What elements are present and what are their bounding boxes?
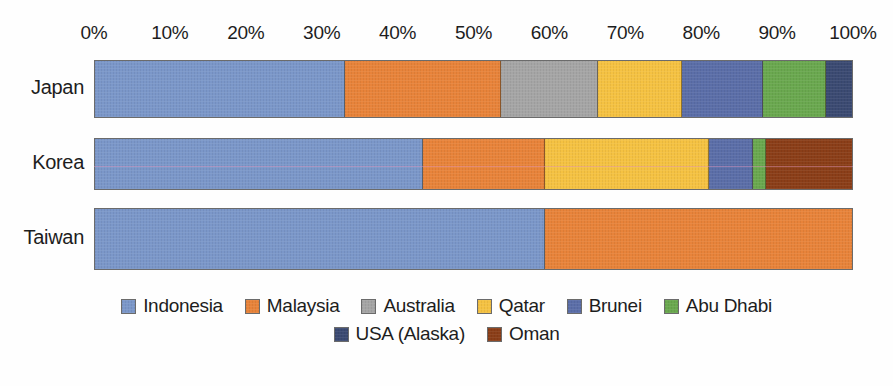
legend-label: Malaysia [267, 295, 340, 317]
segment-texture [766, 139, 852, 189]
legend-swatch-icon [477, 299, 492, 314]
x-axis: 0%10%20%30%40%50%60%70%80%90%100% [94, 22, 853, 48]
bar-segment [763, 61, 826, 117]
legend-item[interactable]: USA (Alaska) [334, 323, 465, 345]
legend-label: USA (Alaska) [356, 323, 465, 345]
bar-segment [95, 61, 345, 117]
category-label: Korea [0, 151, 84, 174]
swatch-texture [122, 300, 135, 313]
legend-label: Oman [509, 323, 560, 345]
segment-texture [95, 139, 422, 189]
bar-segment [598, 61, 682, 117]
category-label: Japan [0, 76, 84, 99]
segment-texture [501, 61, 598, 117]
bar-row: Taiwan [0, 208, 893, 270]
legend-row-1: IndonesiaMalaysiaAustraliaQatarBruneiAbu… [0, 292, 893, 320]
swatch-texture [488, 328, 501, 341]
bar-segment [501, 61, 599, 117]
legend-item[interactable]: Qatar [477, 295, 545, 317]
x-axis-tick-label: 80% [683, 22, 720, 44]
legend-item[interactable]: Oman [487, 323, 560, 345]
stacked-bar-chart: 0%10%20%30%40%50%60%70%80%90%100% JapanK… [0, 0, 893, 386]
legend-swatch-icon [361, 299, 376, 314]
plot-area: JapanKoreaTaiwan [0, 50, 893, 285]
segment-texture [763, 61, 825, 117]
segment-texture [345, 61, 500, 117]
x-axis-tick-label: 40% [379, 22, 416, 44]
x-axis-tick-label: 90% [759, 22, 796, 44]
segment-texture [545, 209, 852, 269]
bar-segment [826, 61, 852, 117]
bar-segment [682, 61, 763, 117]
stacked-bar [94, 138, 853, 190]
legend-item[interactable]: Australia [361, 295, 454, 317]
legend-swatch-icon [121, 299, 136, 314]
x-axis-tick-label: 30% [303, 22, 340, 44]
segment-texture [95, 209, 544, 269]
legend-item[interactable]: Brunei [567, 295, 642, 317]
bar-segment [766, 139, 852, 189]
bar-row: Korea [0, 138, 893, 190]
bar-segment [345, 61, 501, 117]
swatch-texture [568, 300, 581, 313]
legend-item[interactable]: Malaysia [245, 295, 340, 317]
legend-swatch-icon [567, 299, 582, 314]
bar-segment [95, 209, 545, 269]
bar-row: Japan [0, 60, 893, 118]
bar-segment [95, 139, 423, 189]
stacked-bar [94, 60, 853, 118]
segment-texture [826, 61, 852, 117]
legend-label: Australia [383, 295, 454, 317]
bar-segment [753, 139, 767, 189]
bar-segment [423, 139, 545, 189]
bar-segment [545, 209, 852, 269]
segment-texture [682, 61, 762, 117]
swatch-texture [246, 300, 259, 313]
swatch-texture [665, 300, 678, 313]
legend-swatch-icon [487, 327, 502, 342]
x-axis-tick-label: 60% [531, 22, 568, 44]
segment-texture [545, 139, 708, 189]
legend-item[interactable]: Abu Dhabi [664, 295, 772, 317]
legend-label: Qatar [499, 295, 545, 317]
segment-texture [753, 139, 766, 189]
x-axis-tick-label: 70% [607, 22, 644, 44]
legend-swatch-icon [334, 327, 349, 342]
segment-texture [423, 139, 544, 189]
segment-texture [95, 61, 344, 117]
swatch-texture [362, 300, 375, 313]
swatch-texture [478, 300, 491, 313]
legend-label: Brunei [589, 295, 642, 317]
x-axis-tick-label: 10% [151, 22, 188, 44]
legend-label: Indonesia [143, 295, 223, 317]
x-axis-tick-label: 20% [227, 22, 264, 44]
segment-texture [709, 139, 752, 189]
x-axis-tick-label: 100% [829, 22, 876, 44]
legend-row-2: USA (Alaska)Oman [0, 320, 893, 348]
x-axis-tick-label: 50% [455, 22, 492, 44]
category-label: Taiwan [0, 226, 84, 249]
chart-legend: IndonesiaMalaysiaAustraliaQatarBruneiAbu… [0, 292, 893, 348]
legend-swatch-icon [664, 299, 679, 314]
bar-segment [545, 139, 709, 189]
swatch-texture [335, 328, 348, 341]
segment-texture [598, 61, 681, 117]
legend-item[interactable]: Indonesia [121, 295, 223, 317]
legend-swatch-icon [245, 299, 260, 314]
x-axis-tick-label: 0% [81, 22, 108, 44]
legend-label: Abu Dhabi [686, 295, 772, 317]
bar-segment [709, 139, 753, 189]
stacked-bar [94, 208, 853, 270]
